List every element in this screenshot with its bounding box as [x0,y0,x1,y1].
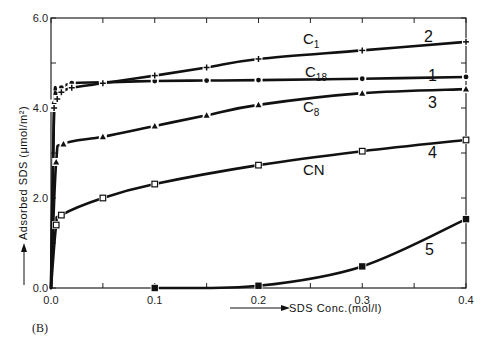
marker-triangle-icon [99,133,107,141]
y-axis-title: Adsorbed SDS (μmol/m²) [17,106,29,240]
marker-plus-icon [151,72,159,80]
y-tick-label: 0.0 [33,282,48,294]
marker-triangle-icon [203,111,211,119]
curve-label-c8: C8 [303,98,320,118]
marker-filled-square-icon [462,215,470,223]
marker-dot-icon [358,75,366,83]
marker-plus-icon [462,38,470,46]
marker-open-square-icon [462,136,470,144]
marker-plus-icon [99,79,107,87]
marker-filled-square-icon [358,262,366,270]
marker-open-square-icon [358,147,366,155]
panel-label: (B) [32,321,48,335]
marker-triangle-icon [52,158,60,166]
adsorption-chart: 0.00.10.20.30.40.02.04.06.0 1C182C13C84C… [0,0,485,354]
marker-triangle-icon [358,89,366,97]
marker-plus-icon [50,104,58,112]
y-axis-arrow-icon [21,243,27,252]
marker-open-square-icon [99,194,107,202]
y-tick-label: 6.0 [33,12,48,24]
x-axis-title: SDS Conc.(mol/l) [289,302,382,314]
curve-label-cn: CN [303,161,325,178]
axes: 0.00.10.20.30.40.02.04.06.0 [33,12,474,306]
marker-open-square-icon [255,161,263,169]
y-axis-title-group: Adsorbed SDS (μmol/m²) [17,106,29,240]
y-tick-label: 4.0 [33,102,48,114]
curves [50,38,470,292]
curve-labels: 1C182C13C84CN5 [303,28,437,258]
marker-triangle-icon [255,101,263,109]
curve-number-5: 5 [425,241,434,258]
marker-open-square-icon [57,211,65,219]
marker-dot-icon [203,77,211,85]
curve-label-c1: C1 [303,30,320,50]
marker-plus-icon [57,88,65,96]
curve-number-1: 1 [428,67,437,84]
curve-number-4: 4 [428,144,437,161]
marker-dot-icon [462,73,470,81]
marker-plus-icon [68,84,76,92]
y-tick-label: 2.0 [33,192,48,204]
marker-plus-icon [203,64,211,72]
marker-dot-icon [255,76,263,84]
marker-plus-icon [255,55,263,63]
series-line-3 [51,89,466,288]
series-line-5 [155,219,466,288]
curve-number-2: 2 [424,28,433,45]
x-tick-label: 0.1 [147,294,162,306]
marker-triangle-icon [59,140,67,148]
marker-filled-square-icon [151,284,159,292]
x-tick-label: 0.2 [251,294,266,306]
marker-filled-square-icon [255,282,263,290]
x-tick-label: 0.4 [458,294,473,306]
marker-plus-icon [358,46,366,54]
marker-open-square-icon [151,180,159,188]
curve-number-3: 3 [428,94,437,111]
marker-triangle-icon [151,122,159,130]
marker-triangle-icon [462,85,470,93]
x-tick-label: 0.0 [43,294,58,306]
marker-open-square-icon [52,221,60,229]
